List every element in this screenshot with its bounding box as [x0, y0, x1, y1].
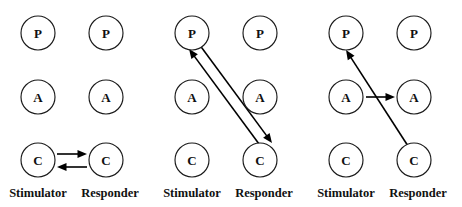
node-responder-top: P — [397, 16, 431, 50]
node-label: A — [187, 90, 197, 105]
node-label: P — [410, 26, 418, 41]
node-label: A — [409, 90, 419, 105]
panel-1-canvas: PPAACCStimulatorResponder — [0, 0, 154, 207]
node-label: C — [101, 153, 110, 168]
node-responder-middle: A — [397, 80, 431, 114]
node-label: P — [188, 26, 196, 41]
node-label: C — [255, 153, 264, 168]
arrow-head — [386, 93, 396, 101]
node-label: P — [256, 26, 264, 41]
node-responder-middle: A — [89, 80, 123, 114]
node-label: A — [255, 90, 265, 105]
network-diagram-figure: PPAACCStimulatorResponderPPAACCStimulato… — [0, 0, 462, 207]
node-label: C — [341, 153, 350, 168]
panel-3: PPAACCStimulatorResponder — [308, 0, 462, 207]
arrow-rc-to-sc — [57, 163, 87, 171]
panel-3-canvas: PPAACCStimulatorResponder — [308, 0, 462, 207]
arrow-sc-to-rc — [57, 150, 87, 158]
node-responder-bottom: C — [243, 143, 277, 177]
arrow-head — [78, 150, 88, 158]
node-responder-bottom: C — [397, 143, 431, 177]
node-label: P — [342, 26, 350, 41]
node-stimulator-bottom: C — [329, 143, 363, 177]
node-stimulator-bottom: C — [21, 143, 55, 177]
node-stimulator-top: P — [21, 16, 55, 50]
label-stimulator: Stimulator — [9, 186, 67, 200]
node-label: C — [187, 153, 196, 168]
node-responder-top: P — [243, 16, 277, 50]
arrow-sa-to-ra — [366, 93, 395, 101]
panel-2: PPAACCStimulatorResponder — [154, 0, 308, 207]
node-stimulator-top: P — [329, 16, 363, 50]
node-label: A — [341, 90, 351, 105]
label-responder: Responder — [81, 186, 139, 200]
node-stimulator-bottom: C — [175, 143, 209, 177]
node-label: C — [33, 153, 42, 168]
node-stimulator-middle: A — [175, 80, 209, 114]
node-label: A — [101, 90, 111, 105]
panel-1: PPAACCStimulatorResponder — [0, 0, 154, 207]
node-stimulator-middle: A — [21, 80, 55, 114]
node-responder-top: P — [89, 16, 123, 50]
label-stimulator: Stimulator — [317, 186, 375, 200]
label-responder: Responder — [235, 186, 293, 200]
arrow-head — [57, 163, 67, 171]
node-responder-middle: A — [243, 80, 277, 114]
node-label: P — [102, 26, 110, 41]
node-label: P — [34, 26, 42, 41]
panel-2-canvas: PPAACCStimulatorResponder — [154, 0, 308, 207]
arrow-head — [346, 50, 355, 60]
node-responder-bottom: C — [89, 143, 123, 177]
node-stimulator-middle: A — [329, 80, 363, 114]
node-label: A — [33, 90, 43, 105]
arrow-head — [263, 133, 272, 143]
label-stimulator: Stimulator — [163, 186, 221, 200]
label-responder: Responder — [389, 186, 447, 200]
node-stimulator-top: P — [175, 16, 209, 50]
node-label: C — [409, 153, 418, 168]
